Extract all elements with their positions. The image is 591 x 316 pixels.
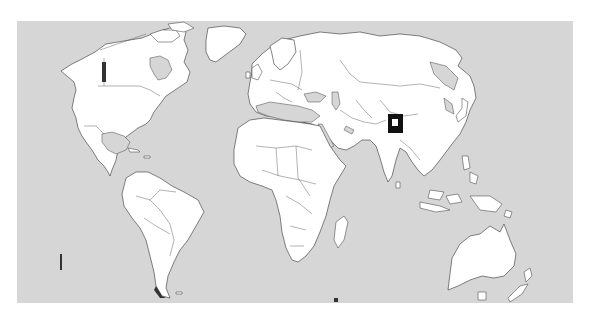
island-speck [60,254,62,270]
world-map [0,0,591,316]
location-marker[interactable] [388,114,403,133]
marker-symbol-icon [392,119,398,126]
island-speck [334,298,338,302]
